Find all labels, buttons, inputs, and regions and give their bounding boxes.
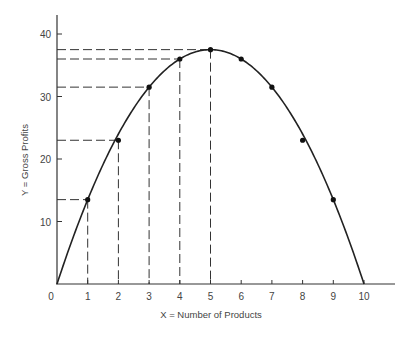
data-point: [331, 197, 336, 202]
x-tick-label: 8: [300, 291, 306, 302]
x-tick-label: 7: [269, 291, 275, 302]
dashed-projection-lines: [57, 50, 211, 284]
x-tick-label: 2: [116, 291, 122, 302]
data-point: [116, 138, 121, 143]
profit-curve-chart: 012345678910 10203040 X = Number of Prod…: [0, 0, 413, 341]
y-tick-label: 20: [40, 154, 52, 165]
x-tick-label: 4: [177, 291, 183, 302]
x-axis-ticks: 012345678910: [48, 280, 370, 302]
y-tick-label: 30: [40, 92, 52, 103]
x-axis-label: X = Number of Products: [160, 309, 262, 320]
x-tick-label: 10: [358, 291, 370, 302]
axes: [56, 15, 395, 284]
x-tick-label: 1: [85, 291, 91, 302]
data-point: [147, 85, 152, 90]
data-point: [300, 138, 305, 143]
x-tick-label: 0: [48, 291, 54, 302]
data-point: [239, 56, 244, 61]
x-tick-label: 3: [146, 291, 152, 302]
y-axis-label: Y = Gross Profits: [19, 124, 30, 196]
x-tick-label: 5: [208, 291, 214, 302]
data-point: [85, 197, 90, 202]
x-tick-label: 9: [331, 291, 337, 302]
x-tick-label: 6: [238, 291, 244, 302]
y-tick-label: 10: [40, 217, 52, 228]
data-point: [177, 56, 182, 61]
data-point: [208, 47, 213, 52]
data-point: [269, 85, 274, 90]
y-tick-label: 40: [40, 29, 52, 40]
